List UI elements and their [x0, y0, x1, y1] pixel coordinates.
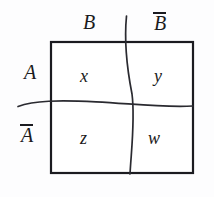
cell-z-text: z [80, 128, 87, 148]
cell-w: w [148, 129, 160, 147]
cell-x: x [80, 67, 88, 85]
row-label-a-bar: A [21, 124, 33, 145]
row-label-a-bar-text: A [21, 124, 33, 145]
cell-y: y [154, 67, 162, 85]
column-label-b-text: B [83, 11, 95, 33]
diagram-canvas [0, 0, 214, 197]
cell-x-text: x [80, 66, 88, 86]
cell-z: z [80, 129, 87, 147]
two-way-partition-diagram: B B A A x y z w [0, 0, 214, 197]
cell-w-text: w [148, 128, 160, 148]
row-label-a: A [24, 62, 36, 82]
column-label-b-bar: B [154, 12, 166, 33]
column-label-b: B [83, 12, 95, 32]
column-label-b-bar-text: B [154, 12, 166, 33]
outer-rectangle [51, 42, 193, 173]
cell-y-text: y [154, 66, 162, 86]
row-label-a-text: A [24, 61, 36, 83]
